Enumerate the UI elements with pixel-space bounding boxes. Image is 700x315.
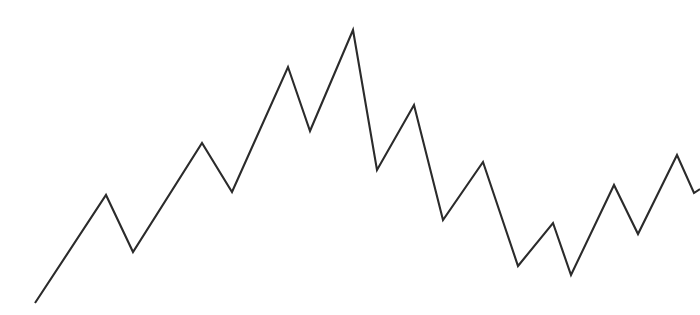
chart-canvas xyxy=(0,0,700,315)
chart-background xyxy=(0,0,700,315)
line-chart-svg xyxy=(0,0,700,315)
